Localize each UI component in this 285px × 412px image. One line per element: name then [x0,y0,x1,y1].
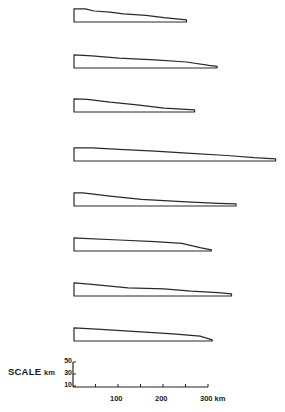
profile-6 [74,238,211,251]
profile-5 [74,193,236,206]
y-tick-label-30: 30 [58,369,72,376]
vertical-unit-label: km [44,368,55,377]
profile-3 [74,99,195,112]
y-tick-label-10: 10 [58,381,72,388]
profile-7 [74,283,232,296]
x-tick-label-100: 100 [110,394,123,403]
x-tick-label-300: 300 km [200,394,225,403]
x-tick-label-200: 200 [155,394,168,403]
scale-bar [73,362,208,387]
profiles-group [74,9,276,341]
profiles-figure [0,0,285,412]
profile-4 [74,148,276,161]
profile-2 [74,55,217,68]
y-tick-label-50: 50 [58,357,72,364]
scale-label: SCALE [8,366,41,377]
profile-8 [74,328,212,341]
profile-1 [74,9,187,22]
